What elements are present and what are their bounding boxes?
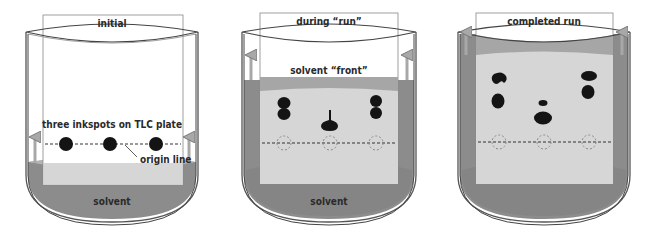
tlc-diagram: initial three inkspots on TLC plate orig…: [0, 0, 654, 234]
solvent-label: solvent: [310, 196, 348, 207]
inkspots-label: three inkspots on TLC plate: [42, 119, 182, 130]
panel-during-run: during “run” solvent “front” solvent: [242, 13, 416, 225]
panel-completed-run: completed run: [458, 13, 630, 225]
inkspot: [103, 137, 117, 151]
panel-title: completed run: [507, 16, 581, 27]
plate-wet-region: [43, 163, 183, 185]
solvent-front-label: solvent “front”: [290, 65, 368, 76]
panel-initial: initial three inkspots on TLC plate orig…: [26, 15, 198, 225]
panel-title: initial: [97, 18, 126, 29]
panel-title: during “run”: [296, 16, 361, 27]
inkspot: [149, 137, 163, 151]
inkspot: [59, 137, 73, 151]
solvent-label: solvent: [93, 196, 131, 207]
origin-label: origin line: [140, 154, 191, 165]
